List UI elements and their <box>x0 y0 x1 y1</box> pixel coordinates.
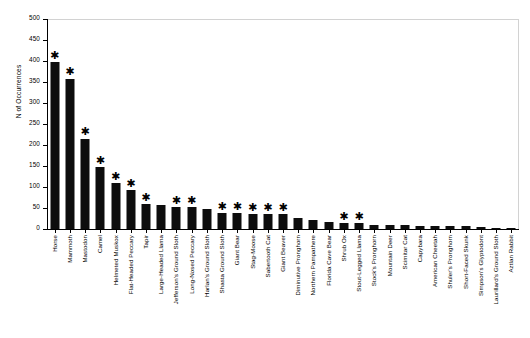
x-label-slot: Laurillard's Ground Sloth <box>489 235 504 338</box>
x-label-slot: Scimitar Cat <box>397 235 412 338</box>
x-axis-label: Flat-Headed Peccary <box>127 235 134 294</box>
bar-slot: ✱ <box>93 19 108 229</box>
bar <box>50 62 59 229</box>
bar-slot: ✱ <box>336 19 351 229</box>
x-axis-label: Mammoth <box>67 235 74 263</box>
x-label-slot: Giant Beaver <box>275 235 290 338</box>
x-label-slot: Shuler's Pronghorn <box>443 235 458 338</box>
x-label-slot: Jefferson's Ground Sloth <box>169 235 184 338</box>
star-marker: ✱ <box>187 197 196 205</box>
bar-slot <box>321 19 336 229</box>
bar <box>172 207 181 229</box>
x-tick-mark <box>85 229 86 233</box>
y-tick-label: 400 <box>29 56 40 63</box>
x-tick-mark <box>374 229 375 233</box>
x-label-slot: Harlan's Ground Sloth <box>199 235 214 338</box>
bar-slot: ✱ <box>169 19 184 229</box>
bar-chart: 050100150200250300350400450500 N of Occu… <box>0 0 530 338</box>
bar-slot <box>382 19 397 229</box>
x-tick-mark <box>268 229 269 233</box>
x-label-slot: Flat-Headed Peccary <box>123 235 138 338</box>
x-axis-label: Sabertooth Cat <box>264 235 271 277</box>
x-axis-label: Helmeted Muskox <box>112 235 119 285</box>
x-label-slot: Camel <box>93 235 108 338</box>
x-axis-label: Scimitar Cat <box>402 235 409 269</box>
x-tick-mark <box>298 229 299 233</box>
bar <box>324 222 333 229</box>
x-axis-label: Short-Faced Skunk <box>462 235 469 289</box>
x-axis-label: Giant Bear <box>234 235 241 265</box>
x-axis-label: Capybara <box>417 235 424 262</box>
x-label-slot: Aztlan Rabbit <box>504 235 519 338</box>
y-tick-label: 150 <box>29 161 40 168</box>
x-axis-label: Aztlan Rabbit <box>508 235 515 273</box>
x-label-slot: Long-Nosed Peccary <box>184 235 199 338</box>
x-tick-mark <box>511 229 512 233</box>
x-axis-label: Stout-Legged Llama <box>356 235 363 292</box>
x-axis-label: Giant Beaver <box>280 235 287 272</box>
x-axis-label: Mountain Deer <box>386 235 393 276</box>
x-tick-mark <box>313 229 314 233</box>
x-axis-label: Laurillard's Ground Sloth <box>493 235 500 304</box>
bar <box>141 204 150 229</box>
star-marker: ✱ <box>233 203 242 211</box>
x-tick-mark <box>344 229 345 233</box>
bar <box>233 213 242 229</box>
x-label-slot: Short-Faced Skunk <box>458 235 473 338</box>
bar <box>218 213 227 229</box>
star-marker: ✱ <box>111 173 120 181</box>
bar <box>126 190 135 229</box>
x-label-slot: Sabertooth Cat <box>260 235 275 338</box>
x-tick-mark <box>253 229 254 233</box>
x-tick-mark <box>435 229 436 233</box>
bar-slot: ✱ <box>245 19 260 229</box>
x-tick-mark <box>283 229 284 233</box>
bar <box>111 183 120 229</box>
y-tick-label: 100 <box>29 182 40 189</box>
y-axis-title: N of Occurrences <box>15 42 22 142</box>
x-tick-mark <box>420 229 421 233</box>
x-label-slot: Stock's Pronghorn <box>367 235 382 338</box>
bar-slot <box>199 19 214 229</box>
star-marker: ✱ <box>248 204 257 212</box>
x-axis-label: Northern Pampathere <box>310 235 317 296</box>
x-axis-labels: HorseMammothMastodonCamelHelmeted Muskox… <box>47 235 519 338</box>
bar-slot: ✱ <box>184 19 199 229</box>
x-axis-label: Large-Headed Llama <box>158 235 165 294</box>
x-axis-label: Diminutive Pronghorn <box>295 235 302 296</box>
x-axis-label: Simpson's Glyptodont <box>478 235 485 296</box>
x-axis-label: Jefferson's Ground Sloth <box>173 235 180 304</box>
x-tick-mark <box>207 229 208 233</box>
x-label-slot: Large-Headed Llama <box>154 235 169 338</box>
x-tick-mark <box>131 229 132 233</box>
bar-slot: ✱ <box>275 19 290 229</box>
y-tick-label: 500 <box>29 14 40 21</box>
x-label-slot: Mountain Deer <box>382 235 397 338</box>
x-axis-label: Camel <box>97 235 104 253</box>
x-axis-label: Harlan's Ground Sloth <box>204 235 211 297</box>
x-label-slot: Simpson's Glyptodont <box>473 235 488 338</box>
y-tick-label: 200 <box>29 140 40 147</box>
y-axis-ticks: 050100150200250300350400450500 <box>0 19 47 230</box>
bar-slot <box>458 19 473 229</box>
x-label-slot: Mammoth <box>62 235 77 338</box>
x-axis-label: Long-Nosed Peccary <box>188 235 195 294</box>
bar-slot: ✱ <box>123 19 138 229</box>
bar <box>202 209 211 229</box>
star-marker: ✱ <box>355 213 364 221</box>
bar-slot: ✱ <box>352 19 367 229</box>
x-tick-mark <box>496 229 497 233</box>
x-tick-mark <box>222 229 223 233</box>
y-tick-label: 450 <box>29 35 40 42</box>
bar-slot <box>443 19 458 229</box>
x-tick-mark <box>100 229 101 233</box>
x-tick-mark <box>55 229 56 233</box>
x-axis-label: Shasta Ground Sloth <box>219 235 226 293</box>
y-tick-label: 300 <box>29 98 40 105</box>
bar <box>294 218 303 229</box>
x-axis-label: Florida Cave Bear <box>325 235 332 286</box>
bar <box>278 214 287 229</box>
x-label-slot: Shasta Ground Sloth <box>214 235 229 338</box>
x-label-slot: Giant Bear <box>230 235 245 338</box>
x-axis-label: Stag-Moose <box>249 235 256 269</box>
